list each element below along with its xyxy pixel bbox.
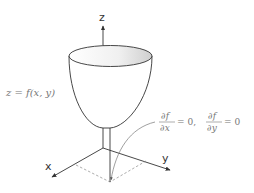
x-axis xyxy=(52,148,103,177)
x-axis-label: x xyxy=(45,160,52,173)
dfdy-denominator: ∂y xyxy=(207,123,218,133)
y-axis-label: y xyxy=(162,152,169,165)
critical-point-condition: ∂f ∂x = 0, ∂f ∂y = 0 xyxy=(159,111,240,133)
dfdx-denominator: ∂x xyxy=(160,123,170,133)
projection-dash-x xyxy=(76,165,110,182)
surface-rim xyxy=(69,46,152,67)
dfdy-numerator: ∂f xyxy=(208,111,218,121)
projection-dash-y xyxy=(110,161,146,182)
surface-label: z = f(x, y) xyxy=(5,87,55,98)
pointer-curve xyxy=(111,122,155,180)
z-axis-label: z xyxy=(99,11,105,24)
diagram-canvas: z x y z = f(x, y) ∂f ∂x = 0, ∂f ∂y = 0 xyxy=(0,0,254,193)
dfdx-numerator: ∂f xyxy=(161,111,171,121)
dfdx-equals: = 0, xyxy=(177,117,196,127)
dfdy-equals: = 0 xyxy=(224,117,240,127)
